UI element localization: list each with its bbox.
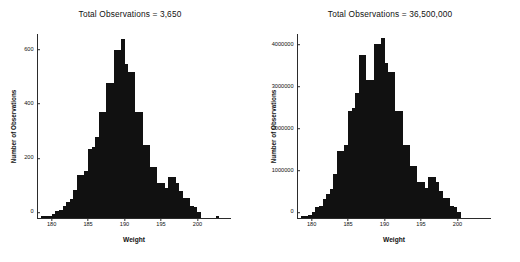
- x-axis-tick-label: 180: [307, 218, 316, 228]
- panel-left-x-axis-label: Weight: [37, 236, 231, 243]
- y-axis-tick-label: 600: [24, 47, 37, 53]
- y-axis-tick-label: 3000000: [272, 84, 297, 90]
- y-axis-tick-label: 0: [30, 210, 37, 216]
- panel-left-plot-area: 0200400600180185190195200: [37, 34, 223, 218]
- panel-left: Total Observations = 3,650 Number of Obs…: [0, 0, 260, 262]
- panel-right: Total Observations = 36,500,000 Number o…: [260, 0, 520, 262]
- x-axis-tick-label: 200: [453, 218, 462, 228]
- panel-right-title: Total Observations = 36,500,000: [260, 9, 520, 19]
- y-axis-tick-label: 400: [24, 101, 37, 107]
- x-axis-tick-label: 190: [380, 218, 389, 228]
- histogram-bar: [216, 216, 220, 218]
- y-axis-tick-label: 1000000: [272, 168, 297, 174]
- histogram-figure: Total Observations = 3,650 Number of Obs…: [0, 0, 520, 262]
- x-axis-tick-label: 195: [416, 218, 425, 228]
- y-axis-tick-label: 200: [24, 156, 37, 162]
- y-axis-tick-label: 4000000: [272, 42, 297, 48]
- panel-left-y-axis-label-text: Number of Observations: [11, 89, 18, 162]
- panel-right-bars: [297, 34, 483, 218]
- panel-right-x-axis-label: Weight: [297, 236, 491, 243]
- x-axis-tick-label: 195: [156, 218, 165, 228]
- y-axis-tick-label: 0: [290, 210, 297, 216]
- x-axis-tick-label: 185: [83, 218, 92, 228]
- x-axis-tick-label: 190: [120, 218, 129, 228]
- panel-left-bars: [37, 34, 223, 218]
- panel-left-title: Total Observations = 3,650: [0, 9, 260, 19]
- x-axis-tick-label: 180: [47, 218, 56, 228]
- panel-left-y-axis-label: Number of Observations: [8, 34, 20, 218]
- x-axis-tick-label: 200: [193, 218, 202, 228]
- panel-right-plot-area: 0100000020000003000000400000018018519019…: [297, 34, 483, 218]
- x-axis-tick-label: 185: [343, 218, 352, 228]
- y-axis-tick-label: 2000000: [272, 126, 297, 132]
